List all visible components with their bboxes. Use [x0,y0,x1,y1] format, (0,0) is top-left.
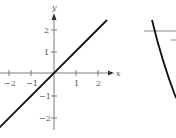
y-tick-label: −2 [39,114,51,123]
x-axis-label: x [116,69,121,78]
y-tick-label: 1 [44,48,49,57]
y-axis-label: y [51,3,57,12]
x-axis-arrow-icon [108,71,114,76]
left-plot: x y −2 −1 1 2 2 1 −1 −2 [0,3,121,130]
x-tick-label: −1 [26,79,38,88]
y-tick-label: −1 [39,92,51,101]
y-tick-label: 2 [44,26,49,35]
curve-line [152,20,176,98]
x-tick-label: 2 [96,79,101,88]
y-axis-arrow-icon [52,13,57,20]
x-tick-label: −2 [4,79,16,88]
right-plot [144,20,176,98]
x-tick-label: 1 [74,79,79,88]
figure-canvas: x y −2 −1 1 2 2 1 −1 −2 [0,0,176,138]
